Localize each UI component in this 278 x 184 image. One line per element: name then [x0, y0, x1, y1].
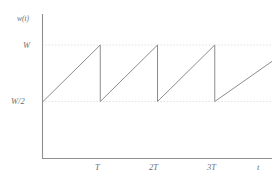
x-tick-label-t: T [95, 163, 100, 172]
series-w-of-t [43, 45, 272, 102]
chart-canvas [0, 0, 278, 184]
sawtooth-congestion-window-figure: w(t) W W/2 T 2T 3T t [0, 0, 278, 184]
sawtooth-polyline [43, 45, 272, 102]
y-tick-label-w: W [23, 41, 30, 50]
y-axis-title: w(t) [17, 15, 29, 23]
y-tick-label-w-half: W/2 [11, 97, 25, 106]
x-tick-label-2t: 2T [149, 163, 158, 172]
x-axis-title: t [257, 163, 259, 172]
x-tick-label-3t: 3T [207, 163, 216, 172]
